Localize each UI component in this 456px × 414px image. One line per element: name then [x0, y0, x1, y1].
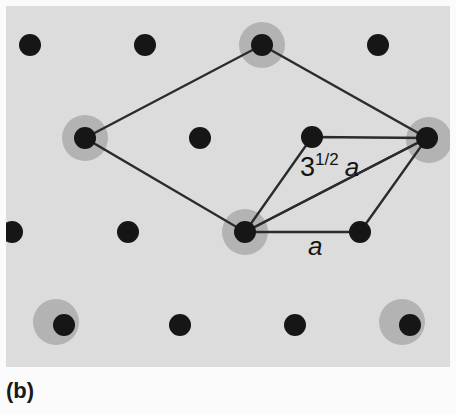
substrate-atom	[251, 34, 273, 56]
substrate-atom	[189, 127, 211, 149]
substrate-atom	[399, 314, 421, 336]
substrate-atom	[284, 314, 306, 336]
lattice-figure: 31/2a a (b)	[0, 0, 456, 414]
substrate-atom	[234, 221, 256, 243]
substrate-atom	[117, 221, 139, 243]
substrate-atom	[301, 126, 323, 148]
substrate-atom	[416, 127, 438, 149]
figure-caption: (b)	[6, 378, 34, 404]
substrate-atom	[19, 34, 41, 56]
substrate-atom	[169, 314, 191, 336]
substrate-atom	[134, 34, 156, 56]
a-dimension-label: a	[308, 231, 322, 261]
lattice-diagram: 31/2a a	[0, 0, 456, 414]
substrate-atom	[349, 221, 371, 243]
substrate-atom	[74, 127, 96, 149]
substrate-atom	[367, 34, 389, 56]
substrate-atom	[53, 314, 75, 336]
